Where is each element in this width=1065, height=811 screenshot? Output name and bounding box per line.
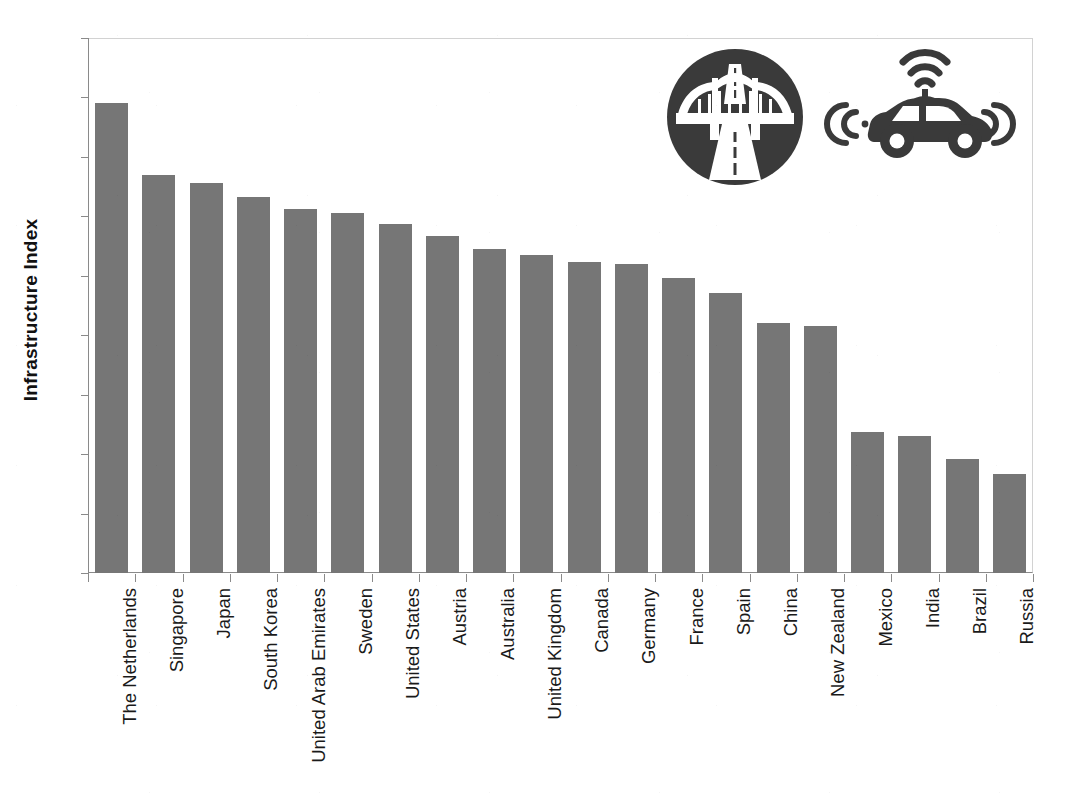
bar [379, 224, 412, 573]
x-category-label: Germany [638, 588, 658, 664]
x-category-label: Canada [591, 588, 611, 653]
bar [237, 197, 270, 573]
x-tick-mark [183, 574, 184, 582]
bar [284, 209, 317, 573]
x-category-label: Sweden [355, 588, 375, 655]
x-tick-mark [324, 574, 325, 582]
bar [426, 236, 459, 573]
bar [615, 264, 648, 573]
x-tick-mark [372, 574, 373, 582]
bar [662, 278, 695, 573]
bar [946, 459, 979, 573]
bar [95, 103, 128, 573]
x-tick-mark [891, 574, 892, 582]
x-tick-mark [466, 574, 467, 582]
x-tick-mark [419, 574, 420, 582]
x-category-label: Japan [213, 588, 233, 638]
x-tick-mark [230, 574, 231, 582]
x-category-label: Spain [733, 588, 753, 635]
x-tick-mark [750, 574, 751, 582]
bar [709, 293, 742, 573]
x-tick-mark [702, 574, 703, 582]
x-tick-mark [88, 574, 89, 582]
x-category-label: Australia [497, 588, 517, 660]
x-category-label: India [922, 588, 942, 628]
x-category-label: Austria [449, 588, 469, 646]
x-category-label: Brazil [969, 588, 989, 634]
bar [898, 436, 931, 573]
x-category-label: Russia [1016, 588, 1036, 645]
x-tick-mark [797, 574, 798, 582]
x-tick-mark [561, 574, 562, 582]
x-tick-mark [655, 574, 656, 582]
bar [757, 323, 790, 573]
x-tick-mark [277, 574, 278, 582]
x-tick-mark [844, 574, 845, 582]
bars-layer [88, 38, 1033, 573]
bar [993, 474, 1026, 573]
x-category-label: Singapore [166, 588, 186, 672]
x-category-label: France [686, 588, 706, 646]
x-tick-mark [513, 574, 514, 582]
bar [190, 183, 223, 573]
x-tick-mark [939, 574, 940, 582]
y-axis-title-text: Infrastructure Index [20, 219, 42, 401]
y-axis-title: Infrastructure Index [14, 180, 48, 440]
bar [473, 249, 506, 573]
x-category-label: China [780, 588, 800, 636]
x-tick-mark [135, 574, 136, 582]
x-category-label: Mexico [875, 588, 895, 647]
x-tick-mark [986, 574, 987, 582]
x-category-label: United Kingdom [544, 588, 564, 720]
x-tick-mark [1033, 574, 1034, 582]
bar [804, 326, 837, 573]
bar [142, 175, 175, 573]
chart-page: Infrastructure Index 0123456789 The Neth… [0, 0, 1065, 811]
x-category-label: New Zealand [827, 588, 847, 697]
x-category-label: United Arab Emirates [308, 588, 328, 763]
x-category-label: United States [402, 588, 422, 699]
bar [851, 432, 884, 573]
x-tick-mark [608, 574, 609, 582]
bar [520, 255, 553, 573]
bar [568, 262, 601, 573]
x-category-label: South Korea [260, 588, 280, 691]
x-category-label: The Netherlands [119, 588, 139, 725]
bar [331, 213, 364, 573]
